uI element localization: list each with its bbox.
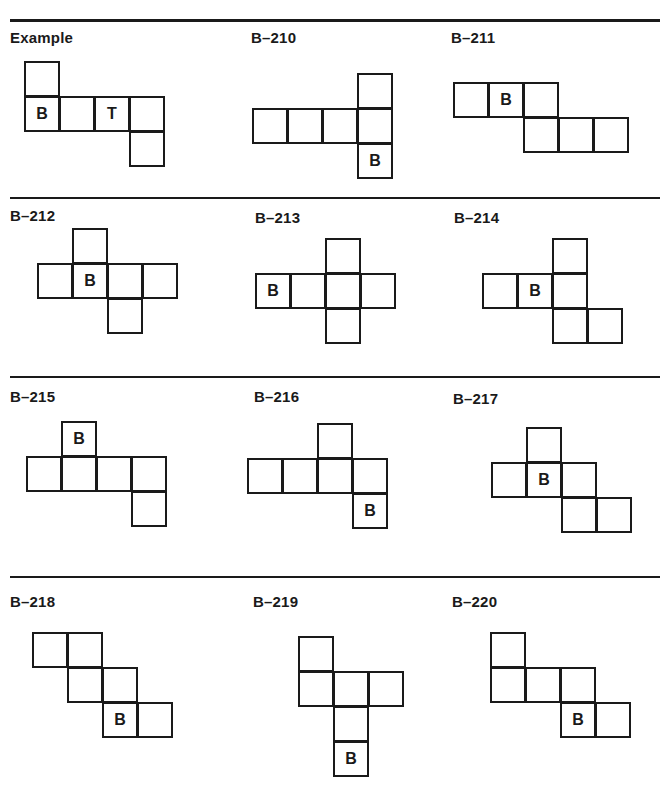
- net-face: [491, 462, 527, 498]
- net-label: B–213: [255, 209, 300, 226]
- net-face: [523, 117, 559, 153]
- net-face: [131, 491, 167, 527]
- net-face: [525, 667, 561, 703]
- net-face: [482, 273, 518, 309]
- net-face: [107, 263, 143, 299]
- net-face: [552, 238, 588, 274]
- net-face-b: B: [72, 263, 108, 299]
- net-face: [131, 456, 167, 492]
- net-face: [333, 706, 369, 742]
- net-face: [137, 702, 173, 738]
- net-face: [558, 117, 594, 153]
- net-face: [129, 96, 165, 132]
- net-face: [552, 273, 588, 309]
- net-label: B–211: [451, 29, 495, 46]
- net-face: [252, 108, 288, 144]
- net-face: [325, 273, 361, 309]
- net-face: [552, 308, 588, 344]
- net-face: [596, 497, 632, 533]
- net-face: [523, 82, 559, 118]
- net-face: [352, 458, 388, 494]
- net-face-b: B: [352, 493, 388, 529]
- net-face: [142, 263, 178, 299]
- net-face: [561, 497, 597, 533]
- net-label: B–215: [10, 388, 55, 405]
- net-face-b: B: [61, 421, 97, 457]
- net-label: B–219: [253, 593, 298, 610]
- net-face: [490, 632, 526, 668]
- section-divider: [10, 197, 660, 199]
- net-face: [561, 462, 597, 498]
- net-face: [317, 458, 353, 494]
- net-face-b: B: [517, 273, 553, 309]
- net-face: [357, 108, 393, 144]
- net-face: [322, 108, 358, 144]
- net-face: [298, 671, 334, 707]
- net-face: [32, 632, 68, 668]
- net-face-b: B: [560, 702, 596, 738]
- section-divider: [10, 19, 660, 22]
- net-face: [26, 456, 62, 492]
- net-face: [325, 238, 361, 274]
- net-face: [360, 273, 396, 309]
- net-face: [67, 632, 103, 668]
- net-face: [282, 458, 318, 494]
- net-face: [357, 73, 393, 109]
- net-label: B–217: [453, 390, 498, 407]
- net-face: [247, 458, 283, 494]
- net-face: [490, 667, 526, 703]
- net-face: [287, 108, 323, 144]
- net-face: [290, 273, 326, 309]
- net-face-b: B: [102, 702, 138, 738]
- net-face: [129, 131, 165, 167]
- section-divider: [10, 576, 660, 578]
- net-face: [560, 667, 596, 703]
- net-face: [96, 456, 132, 492]
- net-face-b: B: [526, 462, 562, 498]
- net-face: [67, 667, 103, 703]
- net-face: [526, 427, 562, 463]
- net-label: B–210: [251, 29, 296, 46]
- net-face-b: B: [255, 273, 291, 309]
- net-face: [24, 61, 60, 97]
- net-face: [333, 671, 369, 707]
- net-face: [368, 671, 404, 707]
- net-face: [61, 456, 97, 492]
- net-face-t: T: [94, 96, 130, 132]
- net-face: [37, 263, 73, 299]
- net-face: [107, 298, 143, 334]
- net-label: B–218: [10, 593, 55, 610]
- net-face: [317, 423, 353, 459]
- net-face-b: B: [24, 96, 60, 132]
- net-face: [298, 636, 334, 672]
- section-divider: [10, 376, 660, 378]
- net-face: [102, 667, 138, 703]
- net-face: [593, 117, 629, 153]
- net-label: B–220: [452, 593, 497, 610]
- net-label: B–212: [10, 207, 55, 224]
- net-face: [587, 308, 623, 344]
- net-label: Example: [10, 29, 73, 46]
- net-face-b: B: [333, 741, 369, 777]
- net-face: [453, 82, 489, 118]
- net-face-b: B: [357, 143, 393, 179]
- net-face: [325, 308, 361, 344]
- net-face: [595, 702, 631, 738]
- net-label: B–214: [454, 209, 499, 226]
- net-label: B–216: [254, 388, 299, 405]
- net-face: [59, 96, 95, 132]
- net-face-b: B: [488, 82, 524, 118]
- net-face: [72, 228, 108, 264]
